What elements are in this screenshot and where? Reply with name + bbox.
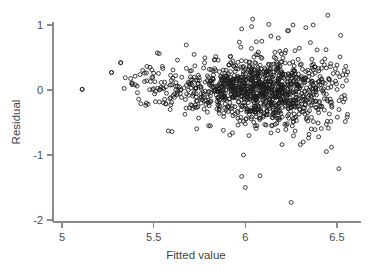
x-tick-label: 5 — [59, 231, 65, 243]
scatter-plot-figure: 10-1-2 55.566.5 Fitted value Residual — [0, 0, 368, 276]
x-tick-label: 6 — [242, 231, 248, 243]
plot-canvas: 10-1-2 55.566.5 Fitted value Residual — [0, 0, 368, 276]
figure-background — [0, 0, 368, 276]
y-tick-label: -2 — [33, 214, 43, 226]
x-tick-label: 5.5 — [146, 231, 161, 243]
x-axis-title: Fitted value — [166, 249, 225, 261]
x-tick-label: 6.5 — [329, 231, 344, 243]
y-tick-label: -1 — [33, 149, 43, 161]
y-tick-label: 0 — [37, 84, 43, 96]
y-tick-label: 1 — [37, 19, 43, 31]
y-axis-title: Residual — [10, 100, 22, 145]
